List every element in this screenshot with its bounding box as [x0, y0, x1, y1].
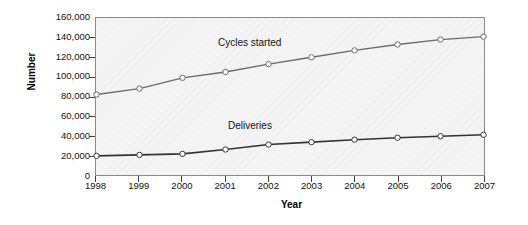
data-point-marker — [180, 75, 185, 80]
data-point-marker — [395, 42, 400, 47]
data-point-marker — [352, 48, 357, 53]
data-point-marker — [94, 92, 99, 97]
data-point-marker — [309, 55, 314, 60]
data-point-marker — [137, 152, 142, 157]
x-tick-label: 2004 — [332, 180, 378, 191]
x-tick-label: 2001 — [202, 180, 248, 191]
data-point-marker — [223, 69, 228, 74]
y-tick-label: 140,000 — [56, 32, 90, 42]
data-point-marker — [309, 139, 314, 144]
data-point-marker — [180, 151, 185, 156]
x-axis-title: Year — [0, 199, 528, 210]
data-point-marker — [223, 147, 228, 152]
x-tick-label: 1999 — [116, 180, 162, 191]
series-line-deliveries — [96, 135, 483, 156]
x-tick-label: 2000 — [159, 180, 205, 191]
data-point-marker — [94, 153, 99, 158]
y-tick-label: 160,000 — [56, 12, 90, 22]
y-tick-label: 20,000 — [61, 151, 90, 161]
y-axis-ticks: 160,000 140,000 120,000 100,000 80,000 6… — [0, 0, 90, 225]
data-point-marker — [395, 135, 400, 140]
x-tick-label: 2006 — [418, 180, 464, 191]
y-tick-label: 100,000 — [56, 71, 90, 81]
data-point-marker — [481, 132, 486, 137]
y-tick-label: 80,000 — [61, 91, 90, 101]
y-tick-label: 120,000 — [56, 52, 90, 62]
data-point-marker — [438, 134, 443, 139]
line-chart: 160,000 140,000 120,000 100,000 80,000 6… — [0, 0, 528, 225]
y-tick-label: 40,000 — [61, 131, 90, 141]
x-tick-label: 2007 — [462, 180, 508, 191]
data-point-marker — [352, 137, 357, 142]
series-label-cycles-started: Cycles started — [218, 37, 281, 48]
x-tick-label: 1998 — [73, 180, 119, 191]
x-tick-label: 2002 — [245, 180, 291, 191]
plot-svg — [96, 18, 484, 175]
data-point-marker — [481, 34, 486, 39]
series-label-deliveries: Deliveries — [228, 120, 272, 131]
y-axis-title: Number — [26, 37, 37, 107]
data-point-marker — [438, 37, 443, 42]
data-point-marker — [266, 142, 271, 147]
data-point-marker — [137, 86, 142, 91]
x-tick-label: 2005 — [375, 180, 421, 191]
plot-area — [95, 17, 485, 176]
data-point-marker — [266, 61, 271, 66]
x-tick-label: 2003 — [289, 180, 335, 191]
y-tick-label: 60,000 — [61, 111, 90, 121]
series-line-cycles-started — [96, 37, 483, 95]
